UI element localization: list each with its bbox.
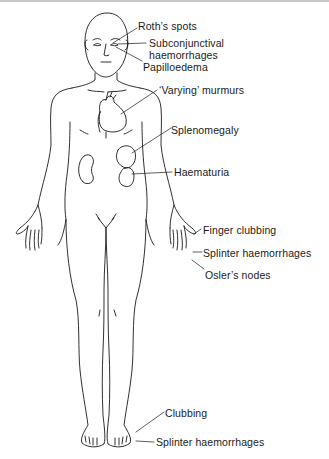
right-arm-outline — [140, 88, 196, 234]
label-subconjunctival-1: Subconjunctival — [149, 37, 224, 49]
label-oslers-nodes: Osler’s nodes — [205, 269, 271, 281]
label-splinter-hand: Splinter haemorrhages — [203, 247, 311, 259]
label-finger-clubbing: Finger clubbing — [203, 224, 276, 236]
head-outline — [85, 13, 128, 77]
left-leg-outline — [66, 220, 106, 447]
label-roths-spots: Roth’s spots — [138, 20, 197, 32]
label-haematuria: Haematuria — [174, 166, 229, 178]
label-splenomegaly: Splenomegaly — [171, 124, 239, 136]
right-kidney — [119, 167, 134, 186]
right-leg-outline — [106, 220, 146, 447]
heart — [99, 96, 126, 132]
left-arm-outline — [16, 88, 72, 234]
left-kidney — [79, 155, 94, 184]
spleen — [116, 146, 135, 168]
label-clubbing-foot: Clubbing — [165, 407, 207, 419]
label-splinter-foot: Splinter haemorrhages — [156, 436, 264, 448]
label-papilloedema: Papilloedema — [143, 61, 208, 73]
label-varying-murmurs: ‘Varying’ murmurs — [159, 84, 244, 96]
label-subconjunctival-2: haemorrhages — [149, 49, 218, 61]
